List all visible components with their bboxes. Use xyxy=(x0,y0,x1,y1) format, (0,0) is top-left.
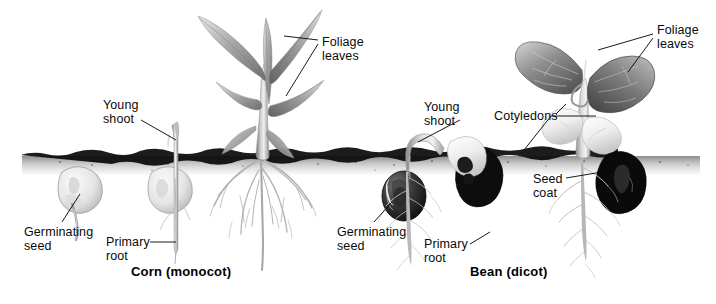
label-young-shoot-bean: Young shoot xyxy=(424,101,460,128)
caption-corn: Corn (monocot) xyxy=(131,264,231,279)
label-primary-root-bean: Primary root xyxy=(424,238,468,265)
caption-bean: Bean (dicot) xyxy=(470,264,548,279)
leader-primary-root-bean xyxy=(470,232,490,244)
corn-stage2-seedling xyxy=(148,121,192,264)
germination-diagram: Foliage leaves Young shoot Germinating s… xyxy=(0,0,716,304)
bean-stage1-germinating-seed xyxy=(382,171,426,221)
label-cotyledons-bean: Cotyledons xyxy=(494,110,558,124)
label-primary-root-corn: Primary root xyxy=(106,236,150,263)
corn-stage3-plant xyxy=(198,10,324,270)
label-seed-coat-bean: Seed coat xyxy=(533,173,563,200)
leader-foliage-leaves-bean-upper xyxy=(598,34,653,50)
label-foliage-leaves-corn: Foliage leaves xyxy=(322,36,364,63)
label-young-shoot-corn: Young shoot xyxy=(103,99,139,126)
leader-young-shoot-corn xyxy=(141,120,176,140)
label-germinating-seed-bean: Germinating seed xyxy=(337,226,406,253)
label-foliage-leaves-bean: Foliage leaves xyxy=(657,24,699,51)
label-germinating-seed-corn: Germinating seed xyxy=(24,226,93,253)
